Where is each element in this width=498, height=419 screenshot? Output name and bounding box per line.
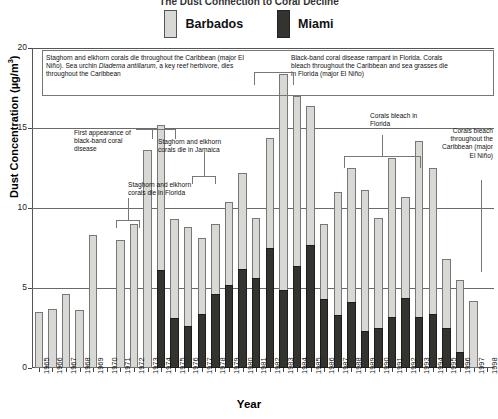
legend-swatch-miami [277, 10, 290, 38]
xtick-mark-1989 [365, 368, 366, 372]
xtick-mark-1970 [107, 368, 108, 372]
xtick-mark-1979 [229, 368, 230, 372]
bar-group-1972 [130, 48, 138, 368]
xtick-label-1988: 1988 [354, 357, 363, 374]
bar-group-1965 [35, 48, 43, 368]
xtick-label-1998: 1998 [490, 357, 498, 374]
xtick-label-1989: 1989 [368, 357, 377, 374]
xtick-mark-1988 [351, 368, 352, 372]
chart-title: The Dust Connection to Coral Decline [0, 0, 498, 7]
xtick-label-1997: 1997 [477, 357, 486, 374]
annotation-1998-bleach: Corals bleach throughout the Caribbean (… [437, 127, 493, 160]
leader-line-florida-bleach [382, 135, 383, 157]
leader-line-florida-die [128, 198, 129, 220]
bar-group-1980 [238, 48, 246, 368]
xtick-label-1985: 1985 [314, 357, 323, 374]
bar-miami-1985 [306, 245, 314, 368]
bar-group-1978 [211, 48, 219, 368]
xtick-mark-1982 [270, 368, 271, 372]
xtick-mark-1966 [52, 368, 53, 372]
bar-miami-1980 [238, 269, 246, 368]
xtick-mark-1977 [202, 368, 203, 372]
xtick-mark-1967 [66, 368, 67, 372]
bar-group-1976 [184, 48, 192, 368]
bar-group-1986 [320, 48, 328, 368]
y-axis-title: Dust Concentration (µg/m3) [6, 55, 20, 198]
bar-group-1985 [306, 48, 314, 368]
legend-item-barbados: Barbados [164, 10, 243, 38]
xtick-mark-1978 [215, 368, 216, 372]
bar-group-1990 [374, 48, 382, 368]
xtick-label-1991: 1991 [395, 357, 404, 374]
bar-group-1975 [170, 48, 178, 368]
ytick-label-10: 10 [5, 202, 27, 212]
xtick-mark-1990 [379, 368, 380, 372]
xtick-mark-1984 [297, 368, 298, 372]
xtick-label-1994: 1994 [436, 357, 445, 374]
xtick-label-1995: 1995 [449, 357, 458, 374]
xtick-label-1996: 1996 [463, 357, 472, 374]
xtick-label-1979: 1979 [232, 357, 241, 374]
bar-group-1982 [266, 48, 274, 368]
xtick-label-1986: 1986 [327, 357, 336, 374]
xtick-mark-1998 [487, 368, 488, 372]
bar-miami-1979 [225, 285, 233, 368]
xtick-mark-1972 [134, 368, 135, 372]
bar-barbados-1969 [89, 235, 97, 368]
xtick-mark-1987 [338, 368, 339, 372]
bar-group-1966 [48, 48, 56, 368]
bar-group-1997 [469, 48, 477, 368]
bar-series-container [32, 48, 494, 368]
xtick-label-1968: 1968 [83, 357, 92, 374]
xtick-mark-1997 [474, 368, 475, 372]
xtick-mark-1971 [120, 368, 121, 372]
xtick-mark-1980 [243, 368, 244, 372]
legend-swatch-barbados [164, 10, 177, 38]
legend-item-miami: Miami [277, 10, 333, 38]
xtick-mark-1985 [311, 368, 312, 372]
bar-group-1992 [401, 48, 409, 368]
xtick-label-1971: 1971 [123, 357, 132, 374]
xtick-mark-1965 [39, 368, 40, 372]
xtick-label-1982: 1982 [273, 357, 282, 374]
xtick-mark-1973 [148, 368, 149, 372]
bar-group-1981 [252, 48, 260, 368]
bar-group-1967 [62, 48, 70, 368]
bracket-1973 [152, 129, 176, 139]
annotation-florida-bleach: Corals bleach in Florida [370, 112, 428, 128]
bar-group-1971 [116, 48, 124, 368]
bracket-1983-1984 [254, 72, 294, 85]
bar-group-1979 [225, 48, 233, 368]
leader-line-1998 [481, 180, 482, 272]
bar-group-1983 [279, 48, 287, 368]
xtick-label-1965: 1965 [42, 357, 51, 374]
xtick-mark-1996 [460, 368, 461, 372]
xtick-label-1990: 1990 [382, 357, 391, 374]
bar-group-1988 [347, 48, 355, 368]
xtick-label-1980: 1980 [246, 357, 255, 374]
xtick-mark-1986 [324, 368, 325, 372]
ytick-label-20: 20 [5, 42, 27, 52]
xtick-mark-1969 [93, 368, 94, 372]
xtick-label-1969: 1969 [96, 357, 105, 374]
ytick-label-5: 5 [5, 282, 27, 292]
bracket-1979 [192, 176, 216, 184]
xtick-mark-1975 [175, 368, 176, 372]
xtick-label-1976: 1976 [191, 357, 200, 374]
ytick-label-0: 0 [5, 362, 27, 372]
bar-miami-1984 [293, 266, 301, 368]
xtick-label-1978: 1978 [218, 357, 227, 374]
xtick-label-1973: 1973 [151, 357, 160, 374]
annotation-first-blackband: First appearance of black-band coral dis… [74, 129, 136, 154]
plot-area: 20 15 10 5 0 Dust Concentration (µg/m3) … [32, 48, 494, 368]
xtick-mark-1968 [80, 368, 81, 372]
bar-group-1977 [198, 48, 206, 368]
bar-miami-1982 [266, 248, 274, 368]
xtick-label-1984: 1984 [300, 357, 309, 374]
bracket-1976 [116, 220, 140, 228]
bar-group-1996 [456, 48, 464, 368]
xtick-label-1975: 1975 [178, 357, 187, 374]
xtick-mark-1995 [446, 368, 447, 372]
xtick-label-1992: 1992 [409, 357, 418, 374]
bar-group-1968 [75, 48, 83, 368]
